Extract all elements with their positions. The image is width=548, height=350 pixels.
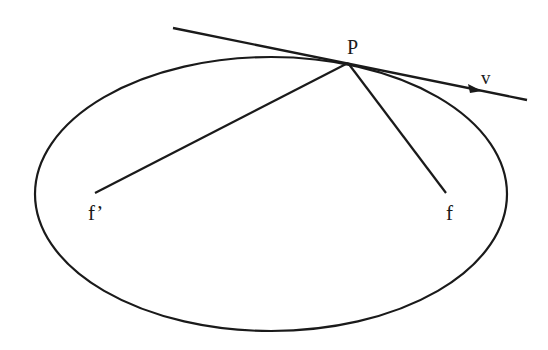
arrowhead-icon: [468, 84, 482, 93]
ellipse-diagram: P v f’ f: [0, 0, 548, 350]
label-f-prime: f’: [88, 201, 103, 225]
label-f: f: [446, 201, 453, 225]
ellipse: [35, 57, 507, 331]
segment-P-to-f: [348, 63, 446, 193]
label-v: v: [481, 67, 491, 88]
label-P: P: [347, 36, 358, 58]
